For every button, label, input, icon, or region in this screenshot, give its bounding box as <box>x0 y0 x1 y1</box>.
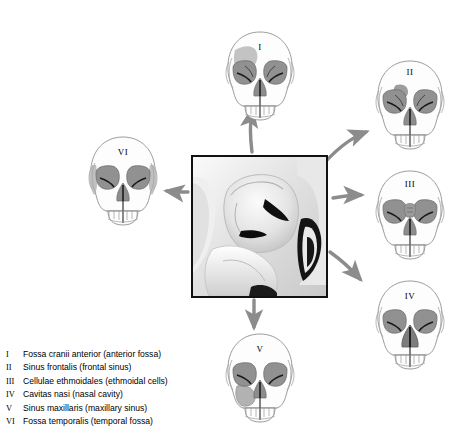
legend-text: Sinus maxillaris (maxillary sinus) <box>23 402 147 414</box>
legend-item: V Sinus maxillaris (maxillary sinus) <box>6 402 256 415</box>
skull-figure-VI: VI <box>78 133 168 233</box>
legend-text: Cavitas nasi (nasal cavity) <box>23 388 123 400</box>
arrow-to-VI <box>167 191 188 192</box>
highlight-ethmoidal-cells <box>405 204 416 218</box>
legend-item: I Fossa cranii anterior (anterior fossa) <box>6 348 256 361</box>
skull-figure-III: III <box>365 167 455 267</box>
legend-item: VI Fossa temporalis (temporal fossa) <box>6 415 256 428</box>
legend-item: IV Cavitas nasi (nasal cavity) <box>6 388 256 401</box>
skull-figure-I: I <box>215 28 305 128</box>
legend-text: Fossa temporalis (temporal fossa) <box>23 415 153 427</box>
legend-numeral: VI <box>6 416 23 428</box>
legend-text: Fossa cranii anterior (anterior fossa) <box>23 348 161 360</box>
legend: I Fossa cranii anterior (anterior fossa)… <box>6 348 256 428</box>
center-image-art <box>193 157 326 296</box>
legend-numeral: II <box>6 362 23 374</box>
arrow-to-III <box>333 195 361 198</box>
arrow-to-IV <box>330 252 360 279</box>
skull-numeral-VI: VI <box>78 147 168 157</box>
legend-text: Cellulae ethmoidales (ethmoidal cells) <box>23 375 168 387</box>
center-anatomy-image <box>191 155 328 298</box>
legend-numeral: IV <box>6 389 23 401</box>
legend-item: III Cellulae ethmoidales (ethmoidal cell… <box>6 375 256 388</box>
skull-figure-IV: IV <box>365 277 455 377</box>
legend-item: II Sinus frontalis (frontal sinus) <box>6 361 256 374</box>
legend-numeral: I <box>6 349 23 361</box>
skull-numeral-III: III <box>365 179 455 189</box>
figure-canvas: I <box>0 0 467 440</box>
legend-numeral: V <box>6 403 23 415</box>
legend-text: Sinus frontalis (frontal sinus) <box>23 361 131 373</box>
skull-numeral-II: II <box>365 67 455 77</box>
legend-numeral: III <box>6 376 23 388</box>
skull-numeral-I: I <box>215 42 305 52</box>
skull-figure-II: II <box>365 57 455 157</box>
skull-numeral-IV: IV <box>365 291 455 301</box>
